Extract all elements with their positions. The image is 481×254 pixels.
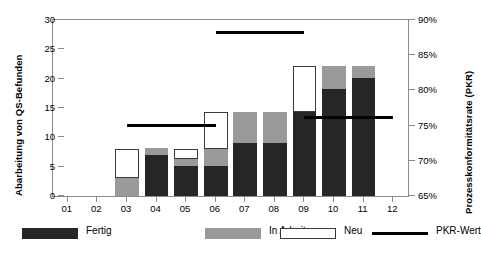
y-axis-right-tick <box>409 160 415 161</box>
bar-segment-in-arbeit <box>204 149 228 166</box>
x-axis-tick-label: 07 <box>239 203 250 214</box>
bar-09 <box>293 66 317 196</box>
y-axis-right-tick-label: 80% <box>418 84 437 95</box>
bar-segment-neu <box>174 149 198 159</box>
y-axis-right-title: Prozesskonformitätsrate (PKR) <box>463 71 474 214</box>
bar-segment-in-arbeit <box>174 159 198 166</box>
y-axis-left-tick <box>58 136 64 137</box>
bar-segment-in-arbeit <box>263 112 287 143</box>
plot-inner <box>53 20 408 196</box>
x-axis-tick-label: 02 <box>91 203 102 214</box>
bar-segment-fertig <box>174 166 198 196</box>
bar-segment-in-arbeit <box>322 66 346 89</box>
x-axis-tick <box>67 197 68 202</box>
legend-label: PKR-Wert <box>436 225 481 236</box>
bar-segment-in-arbeit <box>115 178 139 196</box>
y-axis-left-tick-label: 0 <box>50 190 55 201</box>
bar-segment-fertig <box>352 78 376 197</box>
x-axis-tick <box>215 197 216 202</box>
bar-segment-fertig <box>204 166 228 196</box>
x-axis-tick <box>274 197 275 202</box>
bar-03 <box>115 149 139 196</box>
pkr-line-segment-3 <box>304 116 393 119</box>
x-axis-tick-label: 05 <box>180 203 191 214</box>
x-axis-tick-label: 06 <box>209 203 220 214</box>
bar-05 <box>174 149 198 196</box>
x-axis-tick <box>126 197 127 202</box>
x-axis-tick-label: 12 <box>387 203 398 214</box>
x-axis-tick <box>156 197 157 202</box>
x-axis-tick <box>96 197 97 202</box>
x-axis-tick-label: 11 <box>358 203 368 214</box>
bar-segment-in-arbeit <box>145 148 169 154</box>
y-axis-right-tick <box>409 54 415 55</box>
y-axis-left-tick-label: 15 <box>44 102 55 113</box>
x-axis-tick <box>244 197 245 202</box>
y-axis-left-tick-label: 20 <box>44 72 55 83</box>
y-axis-right-tick-label: 85% <box>418 49 437 60</box>
bar-08 <box>263 112 287 196</box>
bar-segment-fertig <box>233 143 257 196</box>
y-axis-left-tick-label: 5 <box>50 160 55 171</box>
legend-color-swatch <box>280 228 336 239</box>
bar-segment-fertig <box>145 155 169 196</box>
legend-label: Fertig <box>86 225 112 236</box>
x-axis-tick-label: 03 <box>121 203 132 214</box>
y-axis-right-tick <box>409 89 415 90</box>
bar-04 <box>145 148 169 196</box>
bar-segment-in-arbeit <box>233 112 257 143</box>
x-axis-tick <box>363 197 364 202</box>
bar-segment-in-arbeit <box>352 66 376 78</box>
y-axis-left-tick <box>58 166 64 167</box>
y-axis-left-tick <box>58 19 64 20</box>
y-axis-left-tick <box>58 78 64 79</box>
legend-label: Neu <box>344 225 362 236</box>
y-axis-left-title: Abarbeitung von QS-Befunden <box>13 54 24 196</box>
pkr-line-segment-1 <box>127 124 216 127</box>
bar-segment-neu <box>115 149 139 178</box>
x-axis-tick-label: 01 <box>61 203 72 214</box>
bar-11 <box>352 66 376 196</box>
bar-segment-neu <box>204 112 228 149</box>
y-axis-left-tick <box>58 107 64 108</box>
chart-legend: FertigIn ArbeitNeuPKR-Wert <box>0 224 473 254</box>
bar-segment-neu <box>293 66 317 112</box>
y-axis-left-tick <box>58 48 64 49</box>
x-axis-tick <box>303 197 304 202</box>
y-axis-right-tick <box>409 125 415 126</box>
bar-07 <box>233 112 257 196</box>
legend-color-swatch <box>22 228 78 239</box>
y-axis-right-tick <box>409 195 415 196</box>
y-axis-right-tick-label: 70% <box>418 154 437 165</box>
legend-color-swatch <box>205 228 261 239</box>
pkr-line-segment-2 <box>216 31 305 34</box>
bar-segment-fertig <box>293 112 317 196</box>
x-axis-tick-label: 10 <box>328 203 339 214</box>
bar-10 <box>322 66 346 196</box>
y-axis-left-tick-label: 25 <box>44 43 55 54</box>
x-axis-tick <box>333 197 334 202</box>
plot-area <box>52 19 409 197</box>
y-axis-right-tick <box>409 19 415 20</box>
y-axis-right-tick-label: 90% <box>418 14 437 25</box>
legend-line-swatch <box>372 232 428 235</box>
x-axis-tick <box>185 197 186 202</box>
y-axis-left-tick-label: 10 <box>44 131 55 142</box>
y-axis-right-tick-label: 75% <box>418 119 437 130</box>
y-axis-right-tick-label: 65% <box>418 190 437 201</box>
y-axis-left-tick-label: 30 <box>44 14 55 25</box>
y-axis-left-tick <box>58 195 64 196</box>
x-axis-tick-label: 04 <box>150 203 161 214</box>
x-axis-tick-label: 08 <box>269 203 280 214</box>
x-axis-tick <box>392 197 393 202</box>
bar-segment-fertig <box>263 143 287 196</box>
bar-segment-fertig <box>322 89 346 196</box>
x-axis-tick-label: 09 <box>298 203 309 214</box>
